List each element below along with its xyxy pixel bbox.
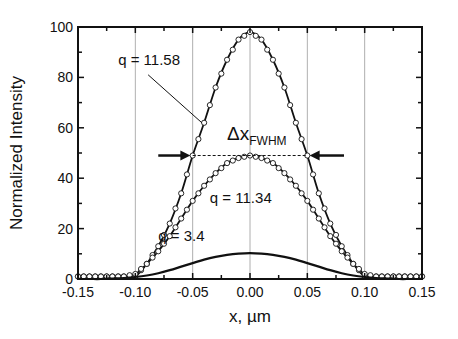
data-marker xyxy=(207,103,212,108)
data-marker xyxy=(293,120,298,125)
data-marker xyxy=(288,103,293,108)
data-marker xyxy=(276,71,281,76)
data-marker xyxy=(253,33,258,38)
left-arrow-icon xyxy=(180,151,190,161)
label-delta-x-fwhm: ΔxFWHM xyxy=(227,123,287,148)
data-marker xyxy=(236,37,241,42)
label-q-3-4: q = 3.4 xyxy=(158,227,204,244)
data-marker xyxy=(316,216,321,221)
y-tick-label: 20 xyxy=(57,221,73,237)
data-marker xyxy=(150,255,155,260)
x-tick-label: 0.05 xyxy=(294,284,321,300)
data-marker xyxy=(356,266,361,271)
data-marker xyxy=(322,225,327,230)
label-q-11-34: q = 11.34 xyxy=(210,189,272,206)
data-marker xyxy=(299,137,304,142)
data-marker xyxy=(184,207,189,212)
data-marker xyxy=(253,154,258,159)
x-tick-label: 0.00 xyxy=(236,284,263,300)
data-marker xyxy=(196,191,201,196)
data-marker xyxy=(202,120,207,125)
y-tick-labels: 020406080100 xyxy=(50,19,74,287)
data-marker xyxy=(242,33,247,38)
annotations: q = 11.58q = 11.34q = 3.4ΔxFWHM xyxy=(118,51,344,244)
data-marker xyxy=(345,255,350,260)
data-marker xyxy=(265,158,270,163)
annotation-arrow xyxy=(148,75,202,123)
data-marker xyxy=(190,198,195,203)
data-marker xyxy=(282,171,287,176)
data-marker xyxy=(310,172,315,177)
data-marker xyxy=(213,85,218,90)
data-marker xyxy=(328,234,333,239)
data-marker xyxy=(202,183,207,188)
chart: q = 11.58q = 11.34q = 3.4ΔxFWHM -0.15-0.… xyxy=(0,0,458,339)
data-marker xyxy=(230,158,235,163)
data-marker xyxy=(224,160,229,165)
data-marker xyxy=(259,155,264,160)
data-marker xyxy=(179,191,184,196)
data-marker xyxy=(167,221,172,226)
data-marker xyxy=(236,155,241,160)
data-marker xyxy=(322,206,327,211)
data-marker xyxy=(282,85,287,90)
y-tick-label: 40 xyxy=(57,170,73,186)
y-tick-label: 0 xyxy=(65,271,73,287)
right-arrow-icon xyxy=(310,151,320,161)
data-marker xyxy=(293,183,298,188)
data-marker xyxy=(230,47,235,52)
data-marker xyxy=(138,266,143,271)
data-marker xyxy=(351,261,356,266)
x-tick-label: 0.10 xyxy=(351,284,378,300)
data-marker xyxy=(224,57,229,62)
y-tick-label: 100 xyxy=(50,19,74,35)
data-marker xyxy=(310,207,315,212)
y-axis-label: Normalized Intensity xyxy=(7,76,26,231)
x-axis-label: x, µm xyxy=(229,307,271,326)
data-marker xyxy=(270,57,275,62)
x-tick-labels: -0.15-0.10-0.050.000.050.100.15 xyxy=(62,284,436,300)
data-marker xyxy=(184,172,189,177)
data-marker xyxy=(299,191,304,196)
data-marker xyxy=(179,216,184,221)
data-marker xyxy=(316,191,321,196)
data-marker xyxy=(288,177,293,182)
data-marker xyxy=(305,198,310,203)
y-tick-label: 60 xyxy=(57,120,73,136)
data-marker xyxy=(219,71,224,76)
x-tick-label: -0.10 xyxy=(119,284,151,300)
data-marker xyxy=(270,160,275,165)
data-marker xyxy=(333,232,338,237)
x-tick-label: 0.15 xyxy=(408,284,435,300)
data-marker xyxy=(156,249,161,254)
data-marker xyxy=(339,249,344,254)
data-marker xyxy=(219,166,224,171)
data-marker xyxy=(242,154,247,159)
data-marker xyxy=(259,37,264,42)
data-marker xyxy=(276,166,281,171)
data-marker xyxy=(333,241,338,246)
x-tick-label: -0.05 xyxy=(177,284,209,300)
data-marker xyxy=(265,47,270,52)
data-marker xyxy=(144,261,149,266)
label-q-11-58: q = 11.58 xyxy=(118,51,180,68)
data-marker xyxy=(196,137,201,142)
data-marker xyxy=(173,206,178,211)
y-tick-label: 80 xyxy=(57,69,73,85)
data-marker xyxy=(328,221,333,226)
data-marker xyxy=(207,177,212,182)
fwhm-subscript: FWHM xyxy=(249,134,286,148)
data-marker xyxy=(213,171,218,176)
